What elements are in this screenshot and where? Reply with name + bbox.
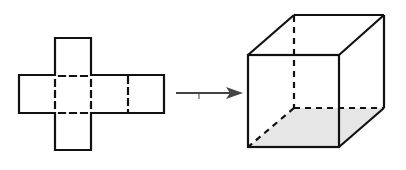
cube-net-to-cube-diagram <box>0 0 406 170</box>
cube <box>248 15 384 147</box>
cube-net <box>19 38 164 150</box>
arrow-icon <box>176 87 243 99</box>
cube-bottom-shade <box>248 108 384 147</box>
diagram-canvas <box>0 0 406 170</box>
net-fold-lines <box>55 76 128 113</box>
